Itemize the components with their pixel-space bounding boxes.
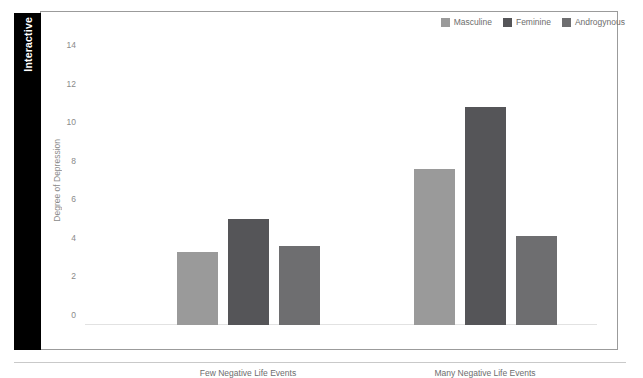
bar-masculine[interactable] [177, 252, 218, 325]
legend-item-feminine[interactable]: Feminine [503, 17, 551, 27]
y-axis-title: Degree of Depression [52, 36, 62, 325]
y-tick-label: 4 [71, 233, 76, 243]
plot-area: 02468101214Few Negative Life EventsMany … [85, 36, 597, 325]
legend-swatch-masculine [441, 18, 450, 27]
y-axis-title-label: Degree of Depression [52, 139, 62, 222]
bar-androgynous[interactable] [279, 246, 320, 325]
y-tick-label: 6 [71, 194, 76, 204]
legend-label-feminine: Feminine [516, 17, 551, 27]
interactive-tab-label: Interactive [22, 17, 34, 72]
y-tick-label: 14 [67, 40, 76, 50]
y-tick-label: 8 [71, 156, 76, 166]
legend-label-androgynous: Androgynous [575, 17, 625, 27]
legend-item-masculine[interactable]: Masculine [441, 17, 492, 27]
category-label: Many Negative Life Events [434, 368, 535, 378]
bar-feminine[interactable] [228, 219, 269, 325]
bar-androgynous[interactable] [516, 236, 557, 325]
bar-group [414, 107, 557, 325]
interactive-tab[interactable]: Interactive [14, 13, 41, 350]
bottom-divider [14, 362, 626, 363]
y-tick-label: 0 [71, 310, 76, 320]
legend-label-masculine: Masculine [454, 17, 492, 27]
y-tick-label: 10 [67, 117, 76, 127]
bar-masculine[interactable] [414, 169, 455, 325]
legend-swatch-feminine [503, 18, 512, 27]
legend-item-androgynous[interactable]: Androgynous [562, 17, 625, 27]
chart-legend: Masculine Feminine Androgynous [441, 17, 625, 27]
bar-feminine[interactable] [465, 107, 506, 325]
y-tick-label: 2 [71, 271, 76, 281]
y-tick-label: 12 [67, 79, 76, 89]
category-label: Few Negative Life Events [200, 368, 296, 378]
bar-group [177, 219, 320, 325]
legend-swatch-androgynous [562, 18, 571, 27]
